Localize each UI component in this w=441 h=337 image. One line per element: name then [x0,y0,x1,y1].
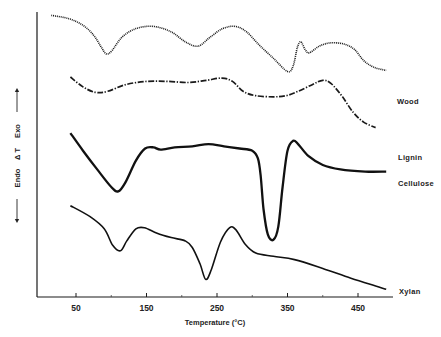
xylan-curve [70,206,386,290]
exo-arrow-icon [15,88,19,92]
x-ticks: 50150250350450 [71,293,365,313]
series-label-xylan: Xylan [399,287,421,296]
y-label-endo: Endo [13,168,22,187]
x-tick-label: 450 [351,303,365,313]
x-tick-label: 250 [210,303,224,313]
y-label-exo: Exo [13,124,22,138]
cellulose-curve [70,133,386,240]
y-axis-annotation: Exo Δ T Endo [13,88,22,223]
dta-chart: 50150250350450 Exo Δ T Endo Wood Lignin … [0,0,441,337]
series-label-wood: Wood [397,97,419,106]
series-label-cellulose: Cellulose [398,179,434,188]
y-label-delta-t: Δ T [13,148,22,160]
wood-curve [51,15,386,71]
x-tick-label: 150 [139,303,153,313]
x-tick-label: 50 [71,303,81,313]
x-axis-title: Temperature (°C) [185,318,246,327]
endo-arrow-icon [15,219,19,223]
lignin-curve [70,77,375,128]
x-tick-label: 350 [280,303,294,313]
series-label-lignin: Lignin [398,153,422,162]
